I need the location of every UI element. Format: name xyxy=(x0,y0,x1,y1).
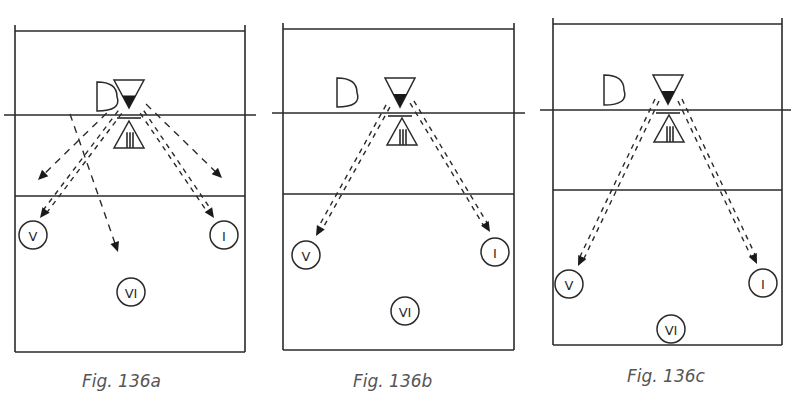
single-dashed-path xyxy=(70,114,119,252)
blocker-triangle-up-icon xyxy=(654,115,684,142)
volleyball-diagrams: VIVIVIVIVIVI xyxy=(0,0,791,404)
path-stroke xyxy=(678,101,751,257)
path-stroke xyxy=(414,101,487,223)
player-label: VI xyxy=(125,286,138,301)
diagram-stage: VIVIVIVIVIVI Fig. 136a Fig. 136b Fig. 13… xyxy=(0,0,791,404)
path-stroke xyxy=(144,111,211,210)
path-stroke xyxy=(580,99,655,257)
path-stroke xyxy=(682,99,755,255)
blocker-triangle-down-icon xyxy=(114,80,144,108)
blocker-triangle-up-icon xyxy=(387,118,417,145)
arrowhead-icon xyxy=(110,241,119,252)
player-vi: VI xyxy=(391,297,419,325)
player-vi: VI xyxy=(657,315,685,343)
setter-d-icon xyxy=(97,82,118,111)
figure-caption-136c: Fig. 136c xyxy=(627,366,705,386)
player-v: V xyxy=(555,270,583,298)
path-stroke xyxy=(44,111,119,210)
double-dashed-path xyxy=(578,99,659,266)
path-stroke xyxy=(146,104,216,172)
path-stroke xyxy=(318,105,386,227)
player-label: VI xyxy=(665,323,678,338)
path-stroke xyxy=(47,113,122,212)
fig-136c: VIVI xyxy=(540,18,791,345)
arrowhead-icon xyxy=(481,221,490,232)
triangle-outline xyxy=(114,121,144,148)
double-dashed-path xyxy=(678,99,757,264)
triangle-fill xyxy=(393,94,407,107)
figure-caption-136b: Fig. 136b xyxy=(353,371,432,391)
player-label: I xyxy=(222,229,226,244)
triangle-outline xyxy=(387,118,417,145)
double-dashed-path xyxy=(40,111,122,218)
triangle-outline xyxy=(654,115,684,142)
player-label: V xyxy=(302,249,311,264)
arrowhead-icon xyxy=(205,207,214,218)
path-stroke xyxy=(322,107,390,229)
player-label: I xyxy=(761,277,765,292)
player-label: I xyxy=(493,246,497,261)
player-i: I xyxy=(210,221,238,249)
setter-d-icon xyxy=(337,78,358,107)
setter-d-icon xyxy=(604,75,625,105)
player-i: I xyxy=(481,238,509,266)
player-i: I xyxy=(749,269,777,297)
player-label: V xyxy=(29,229,38,244)
double-dashed-path xyxy=(410,101,490,232)
fig-136a: VIVI xyxy=(4,25,256,352)
player-v: V xyxy=(19,221,47,249)
double-dashed-path xyxy=(316,105,390,236)
path-stroke xyxy=(140,113,207,212)
arrowhead-icon xyxy=(316,225,325,236)
path-stroke xyxy=(410,103,483,225)
blocker-triangle-up-icon xyxy=(114,121,144,148)
arrowhead-icon xyxy=(749,253,757,264)
path-stroke xyxy=(70,114,115,243)
player-label: VI xyxy=(399,305,412,320)
path-stroke xyxy=(584,101,659,259)
figure-caption-136a: Fig. 136a xyxy=(82,371,161,391)
blocker-triangle-down-icon xyxy=(653,75,683,104)
player-vi: VI xyxy=(117,278,145,306)
blocker-triangle-down-icon xyxy=(385,78,415,107)
double-dashed-path xyxy=(140,111,214,218)
player-label: V xyxy=(565,278,574,293)
fig-136b: VIVI xyxy=(272,23,525,350)
triangle-fill xyxy=(122,95,136,108)
player-v: V xyxy=(292,241,320,269)
triangle-fill xyxy=(661,91,675,104)
